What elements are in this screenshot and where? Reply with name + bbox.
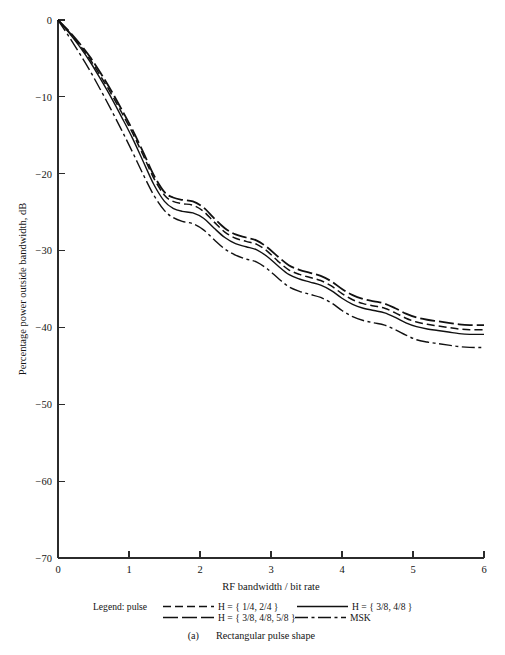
legend-label-1: H = { 3/8, 4/8 } <box>352 601 412 612</box>
series-curve-2 <box>58 20 484 325</box>
power-spectrum-chart: 0−10−20−30−40−50−60−70 0123456 RF bandwi… <box>0 0 505 655</box>
series-curve-0 <box>58 20 484 330</box>
y-tick-label: −70 <box>36 553 52 564</box>
legend-label-2: H = { 3/8, 4/8, 5/8 } <box>218 612 296 623</box>
axes-group <box>58 20 484 558</box>
y-tick-label: −10 <box>36 92 52 103</box>
x-tick-label: 5 <box>410 564 415 575</box>
series-curve-3 <box>58 20 484 347</box>
x-tick-label: 3 <box>268 564 273 575</box>
y-tick-label: −30 <box>36 245 52 256</box>
legend-label-0: H = { 1/4, 2/4 } <box>218 601 278 612</box>
data-curves-group <box>58 20 484 347</box>
x-tick-label: 6 <box>481 564 486 575</box>
x-tick-label: 0 <box>55 564 60 575</box>
figure-caption: (a) Rectangular pulse shape <box>188 630 316 642</box>
x-axis-ticks: 0123456 <box>55 551 486 575</box>
y-tick-label: −50 <box>36 399 52 410</box>
y-tick-label: 0 <box>47 15 52 26</box>
y-tick-label: −40 <box>36 322 52 333</box>
y-axis-ticks: 0−10−20−30−40−50−60−70 <box>36 15 65 564</box>
legend: Legend: pulse H = { 1/4, 2/4 }H = { 3/8,… <box>93 601 412 623</box>
series-curve-1 <box>58 20 484 334</box>
y-tick-label: −20 <box>36 169 52 180</box>
x-axis-title: RF bandwidth / bit rate <box>222 581 320 592</box>
legend-label-3: MSK <box>350 612 371 623</box>
legend-prefix-label: Legend: pulse <box>93 601 147 612</box>
y-axis-title: Percentage power outside bandwidth, dB <box>17 203 28 375</box>
caption-text: Rectangular pulse shape <box>216 630 315 641</box>
x-tick-label: 2 <box>197 564 202 575</box>
caption-index: (a) <box>188 630 199 642</box>
y-tick-label: −60 <box>36 476 52 487</box>
x-tick-label: 1 <box>126 564 131 575</box>
figure-root: 0−10−20−30−40−50−60−70 0123456 RF bandwi… <box>0 0 505 655</box>
x-tick-label: 4 <box>339 564 345 575</box>
